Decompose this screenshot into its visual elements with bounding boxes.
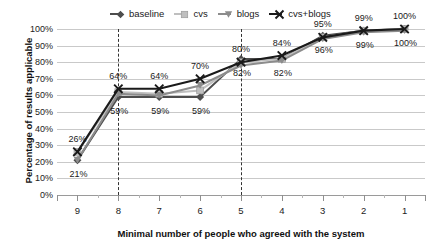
data-label-below: 100% bbox=[394, 38, 417, 48]
data-label-above: 99% bbox=[355, 13, 373, 23]
data-label-below: 99% bbox=[356, 40, 374, 50]
x-axis-tick bbox=[425, 195, 426, 201]
x-axis-tick bbox=[57, 195, 58, 201]
x-axis-minor-tick bbox=[180, 195, 181, 198]
y-axis-tick-label: 10% bbox=[35, 173, 53, 183]
data-label-below: 59% bbox=[151, 106, 169, 116]
x-axis-minor-tick bbox=[139, 195, 140, 198]
x-axis-tick-label: 4 bbox=[279, 205, 284, 216]
x-axis-tick bbox=[118, 195, 119, 201]
y-axis-tick-label: 30% bbox=[35, 140, 53, 150]
y-axis-tick-label: 40% bbox=[35, 124, 53, 134]
triangle-marker bbox=[224, 11, 231, 17]
data-label-above: 95% bbox=[314, 19, 332, 29]
x-axis-minor-tick bbox=[98, 195, 99, 198]
x-axis-tick-label: 5 bbox=[238, 205, 243, 216]
x-axis-tick-label: 7 bbox=[157, 205, 162, 216]
data-label-above: 70% bbox=[191, 61, 209, 71]
x-axis-minor-tick bbox=[343, 195, 344, 198]
data-label-below: 96% bbox=[315, 45, 333, 55]
x-axis-minor-tick bbox=[384, 195, 385, 198]
x-axis-minor-tick bbox=[261, 195, 262, 198]
legend-item-baseline[interactable]: baseline bbox=[110, 9, 164, 20]
data-label-below: 82% bbox=[274, 68, 292, 78]
x-axis-tick-label: 2 bbox=[361, 205, 366, 216]
x-axis-tick bbox=[159, 195, 160, 201]
data-label-above: 84% bbox=[273, 38, 291, 48]
legend-item-blogs[interactable]: blogs bbox=[218, 9, 260, 20]
x-axis-tick bbox=[77, 195, 78, 201]
data-label-above: 80% bbox=[232, 44, 250, 54]
x-axis-minor-tick bbox=[221, 195, 222, 198]
x-axis-tick bbox=[200, 195, 201, 201]
y-axis-tick-label: 60% bbox=[35, 90, 53, 100]
plot-area: 0%10%20%30%40%50%60%70%80%90%100% 987654… bbox=[57, 29, 425, 195]
legend-diamond-icon bbox=[115, 9, 126, 20]
x-axis-tick bbox=[282, 195, 283, 201]
x-axis-minor-tick bbox=[302, 195, 303, 198]
x-axis-tick-label: 9 bbox=[75, 205, 80, 216]
y-axis-tick-label: 70% bbox=[35, 74, 53, 84]
x-axis-tick-label: 8 bbox=[116, 205, 121, 216]
legend-item-cvs-blogs[interactable]: cvs+blogs bbox=[269, 9, 331, 20]
y-axis-title: Percentage of results applicable bbox=[23, 21, 34, 201]
legend-label: cvs+blogs bbox=[288, 9, 331, 19]
line-chart: baselinecvsblogscvs+blogs Percentage of … bbox=[0, 0, 440, 250]
x-axis-tick bbox=[364, 195, 365, 201]
legend-x-icon bbox=[274, 9, 285, 20]
data-label-above: 26% bbox=[68, 134, 86, 144]
x-axis-tick-label: 6 bbox=[197, 205, 202, 216]
diamond-marker bbox=[117, 10, 125, 18]
data-label-above: 64% bbox=[109, 71, 127, 81]
data-label-above: 64% bbox=[150, 71, 168, 81]
data-label-below: 59% bbox=[110, 106, 128, 116]
legend-item-cvs[interactable]: cvs bbox=[174, 9, 207, 20]
legend-label: blogs bbox=[237, 9, 260, 19]
y-axis-tick-label: 50% bbox=[35, 107, 53, 117]
y-axis-tick-label: 0% bbox=[40, 190, 53, 200]
y-axis-tick-label: 80% bbox=[35, 57, 53, 67]
legend-label: baseline bbox=[129, 9, 164, 19]
y-axis-tick-label: 20% bbox=[35, 157, 53, 167]
x-axis-title: Minimal number of people who agreed with… bbox=[57, 228, 425, 239]
x-axis-tick bbox=[323, 195, 324, 201]
data-label-below: 21% bbox=[69, 169, 87, 179]
x-axis-tick-label: 3 bbox=[320, 205, 325, 216]
y-axis-tick-label: 90% bbox=[35, 41, 53, 51]
square-marker bbox=[182, 11, 188, 17]
x-marker bbox=[276, 10, 284, 18]
legend-triangle-icon bbox=[223, 9, 234, 20]
data-label-above: 100% bbox=[393, 11, 416, 21]
x-axis-tick bbox=[241, 195, 242, 201]
data-label-below: 82% bbox=[233, 68, 251, 78]
x-axis-tick-label: 1 bbox=[402, 205, 407, 216]
x-axis-tick bbox=[405, 195, 406, 201]
legend-square-icon bbox=[179, 9, 190, 20]
data-label-below: 59% bbox=[192, 106, 210, 116]
y-axis-tick-label: 100% bbox=[30, 24, 53, 34]
legend-label: cvs bbox=[193, 9, 207, 19]
